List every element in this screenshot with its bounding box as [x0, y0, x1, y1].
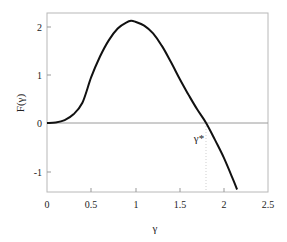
f-gamma-curve: [47, 21, 237, 190]
y-axis-label: F(γ): [14, 94, 27, 113]
y-tick-label: 2: [37, 22, 42, 33]
y-tick-label: -1: [34, 167, 42, 178]
x-ticks: [91, 188, 224, 192]
x-tick-label: 2: [222, 199, 227, 210]
y-tick-label: 1: [37, 70, 42, 81]
x-tick-label: 2.5: [262, 199, 275, 210]
x-tick-label: 1.5: [174, 199, 187, 210]
x-tick-label: 0: [45, 199, 50, 210]
chart: 2 1 0 -1 0 0.5 1 1.5 2 2.5 γ F(γ) γ*: [0, 0, 287, 242]
x-axis-label: γ: [152, 222, 158, 234]
y-tick-label: 0: [37, 118, 42, 129]
x-tick-label: 0.5: [85, 199, 98, 210]
y-ticks: [47, 27, 51, 172]
gamma-star-annotation: γ*: [193, 132, 204, 144]
x-tick-label: 1: [134, 199, 139, 210]
